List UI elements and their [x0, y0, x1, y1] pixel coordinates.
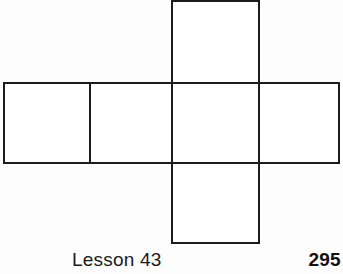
net-square-row-midleft	[90, 83, 172, 163]
net-square-row-right	[259, 83, 339, 163]
cube-net-cross-diagram	[0, 0, 343, 250]
net-square-bottom	[172, 163, 259, 243]
net-square-row-center	[172, 83, 259, 163]
footer-lesson-label: Lesson 43	[72, 248, 161, 272]
footer-page-number: 295	[308, 248, 341, 272]
page-canvas: Lesson 43 295	[0, 0, 343, 274]
page-footer: Lesson 43 295	[0, 248, 343, 274]
net-square-row-left	[4, 83, 90, 163]
net-square-top	[172, 1, 259, 83]
